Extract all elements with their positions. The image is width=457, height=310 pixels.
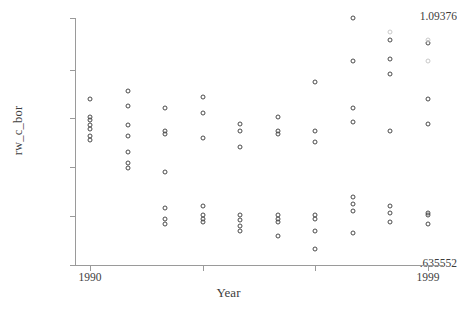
data-point <box>163 221 168 226</box>
data-point <box>313 139 318 144</box>
data-point <box>88 137 93 142</box>
data-point <box>425 96 430 101</box>
data-point <box>388 57 393 62</box>
data-point <box>313 216 318 221</box>
data-point <box>275 234 280 239</box>
data-point <box>388 128 393 133</box>
data-point <box>200 94 205 99</box>
data-point <box>425 211 430 216</box>
scatter-plot-figure: rw_c_bor 1.09376 .635552 1990 1999 Year <box>0 0 457 310</box>
data-point <box>163 132 168 137</box>
data-point <box>350 59 355 64</box>
y-axis-title: rw_c_bor <box>8 0 30 260</box>
data-point <box>125 134 130 139</box>
data-point <box>88 127 93 132</box>
data-point <box>163 169 168 174</box>
y-axis-title-text: rw_c_bor <box>12 105 27 155</box>
data-point <box>425 212 430 217</box>
data-point <box>425 41 430 46</box>
data-point <box>238 218 243 223</box>
data-point <box>425 221 430 226</box>
data-point <box>388 204 393 209</box>
x-axis-tick-label-max: 1999 <box>416 271 439 283</box>
x-axis-title-text: Year <box>217 285 241 300</box>
data-point <box>200 220 205 225</box>
data-point <box>200 216 205 221</box>
data-point <box>313 212 318 217</box>
data-point <box>388 37 393 42</box>
data-point <box>125 123 130 128</box>
x-axis-title: Year <box>0 285 457 301</box>
data-point <box>350 16 355 21</box>
data-point <box>388 71 393 76</box>
data-point <box>200 110 205 115</box>
data-point <box>350 119 355 124</box>
data-point <box>388 211 393 216</box>
data-point <box>200 135 205 140</box>
data-point <box>388 30 393 35</box>
data-point <box>275 216 280 221</box>
data-point <box>313 246 318 251</box>
x-axis-line <box>75 265 443 266</box>
data-point <box>88 118 93 123</box>
data-point <box>88 114 93 119</box>
data-point <box>88 134 93 139</box>
data-point <box>425 121 430 126</box>
data-point <box>313 80 318 85</box>
data-point <box>163 128 168 133</box>
data-point <box>388 220 393 225</box>
data-point <box>88 123 93 128</box>
data-point <box>350 195 355 200</box>
data-point <box>350 230 355 235</box>
data-point <box>200 204 205 209</box>
data-point <box>275 128 280 133</box>
data-point <box>275 220 280 225</box>
data-point <box>238 212 243 217</box>
data-point <box>125 166 130 171</box>
data-point <box>163 105 168 110</box>
data-point <box>125 161 130 166</box>
x-axis-tick-label-min: 1990 <box>79 271 102 283</box>
data-point <box>313 128 318 133</box>
y-axis-tick-label-max: 1.09376 <box>389 10 457 22</box>
data-point <box>275 212 280 217</box>
y-axis-tick-label-min: .635552 <box>389 257 457 269</box>
data-point <box>350 202 355 207</box>
data-point <box>238 229 243 234</box>
data-point <box>163 216 168 221</box>
data-point <box>125 89 130 94</box>
data-point <box>425 37 430 42</box>
data-point <box>125 103 130 108</box>
data-point <box>200 212 205 217</box>
data-point <box>163 205 168 210</box>
data-point <box>238 144 243 149</box>
data-point <box>238 121 243 126</box>
data-point <box>125 150 130 155</box>
data-point <box>275 132 280 137</box>
y-axis-line <box>75 18 76 265</box>
data-point <box>313 229 318 234</box>
data-point <box>275 114 280 119</box>
data-point <box>425 59 430 64</box>
data-point <box>350 209 355 214</box>
x-axis-tick <box>315 266 316 271</box>
data-point <box>238 128 243 133</box>
data-point <box>238 223 243 228</box>
data-point <box>350 105 355 110</box>
data-point <box>88 96 93 101</box>
x-axis-tick <box>203 266 204 271</box>
